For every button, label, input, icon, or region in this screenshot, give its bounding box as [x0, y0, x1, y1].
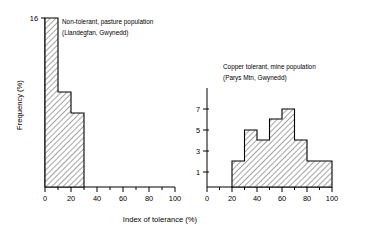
right-x-ticklabel-20: 20	[228, 194, 236, 203]
left-y-axis-title: Frequency (%)	[15, 80, 24, 130]
right-x-ticklabel-40: 40	[253, 194, 261, 203]
right-x-ticklabel-0: 0	[205, 194, 209, 203]
right-y-ticklabel-3: 3	[196, 147, 200, 156]
right-histogram-bars	[232, 109, 332, 187]
left-annotation-line2: (Llandegfan, Gwynedd)	[62, 29, 128, 37]
left-x-ticklabel-40: 40	[93, 194, 101, 203]
right-y-ticklabel-7: 7	[196, 105, 200, 114]
left-x-ticklabel-100: 100	[169, 194, 181, 203]
x-axis-title: Index of tolerance (%)	[123, 215, 198, 224]
left-histogram-bars	[45, 18, 84, 187]
left-y-ticklabel-16: 16	[30, 14, 38, 23]
left-annotation-line1: Non-tolerant, pasture population	[62, 18, 154, 26]
left-x-ticklabel-20: 20	[67, 194, 75, 203]
right-y-ticklabel-1: 1	[196, 168, 200, 177]
histogram-figure: 16 0 20 40 60 80 100 Frequency (%)	[0, 0, 372, 235]
left-x-ticklabel-80: 80	[145, 194, 153, 203]
right-x-ticklabel-80: 80	[303, 194, 311, 203]
right-histogram-chart: 1 3 5 7 0 20 40 60 80 100	[196, 63, 338, 203]
right-annotation-line1: Copper tolerant, mine population	[223, 63, 316, 71]
right-x-ticklabel-60: 60	[278, 194, 286, 203]
left-x-ticklabel-60: 60	[119, 194, 127, 203]
right-x-ticklabel-100: 100	[326, 194, 338, 203]
figure-container: 16 0 20 40 60 80 100 Frequency (%)	[0, 0, 372, 235]
right-y-ticklabel-5: 5	[196, 126, 200, 135]
right-annotation-line2: (Parys Mtn, Gwynedd)	[223, 74, 287, 82]
left-x-ticklabel-0: 0	[43, 194, 47, 203]
left-histogram-chart: 16 0 20 40 60 80 100 Frequency (%)	[15, 14, 181, 203]
